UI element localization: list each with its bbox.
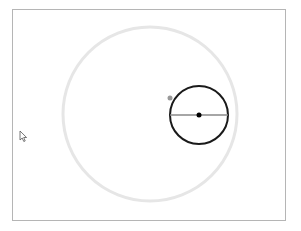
center-point[interactable] [197, 113, 202, 118]
handle-point[interactable] [168, 96, 173, 101]
arrow-cursor-icon [20, 131, 27, 142]
drawing-canvas[interactable] [0, 0, 301, 231]
big-circle [63, 27, 237, 201]
